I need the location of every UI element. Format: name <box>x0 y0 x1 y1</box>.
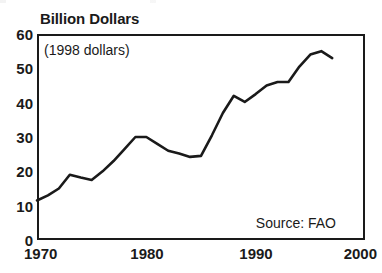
y-tick-label-40: 40 <box>3 95 33 110</box>
x-tick-label-1970: 1970 <box>24 246 57 261</box>
data-series-layer <box>37 34 365 240</box>
y-tick-label-60: 60 <box>3 27 33 42</box>
y-tick-label-20: 20 <box>3 164 33 179</box>
y-tick-label-50: 50 <box>3 61 33 76</box>
y-tick-label-0: 0 <box>3 233 33 248</box>
y-tick-label-30: 30 <box>3 130 33 145</box>
chart-figure: Billion Dollars 0 10 20 30 40 50 60 1970… <box>0 0 382 273</box>
y-tick-label-10: 10 <box>3 198 33 213</box>
x-tick-label-2000: 2000 <box>344 246 377 261</box>
source-annotation: Source: FAO <box>256 215 336 231</box>
y-axis-title: Billion Dollars <box>40 10 139 27</box>
line-series-world-fish-exports <box>37 51 332 200</box>
x-tick-label-1980: 1980 <box>130 246 163 261</box>
x-tick-label-1990: 1990 <box>239 246 272 261</box>
currency-basis-annotation: (1998 dollars) <box>44 42 130 58</box>
cropped-text-artifact <box>0 0 382 3</box>
